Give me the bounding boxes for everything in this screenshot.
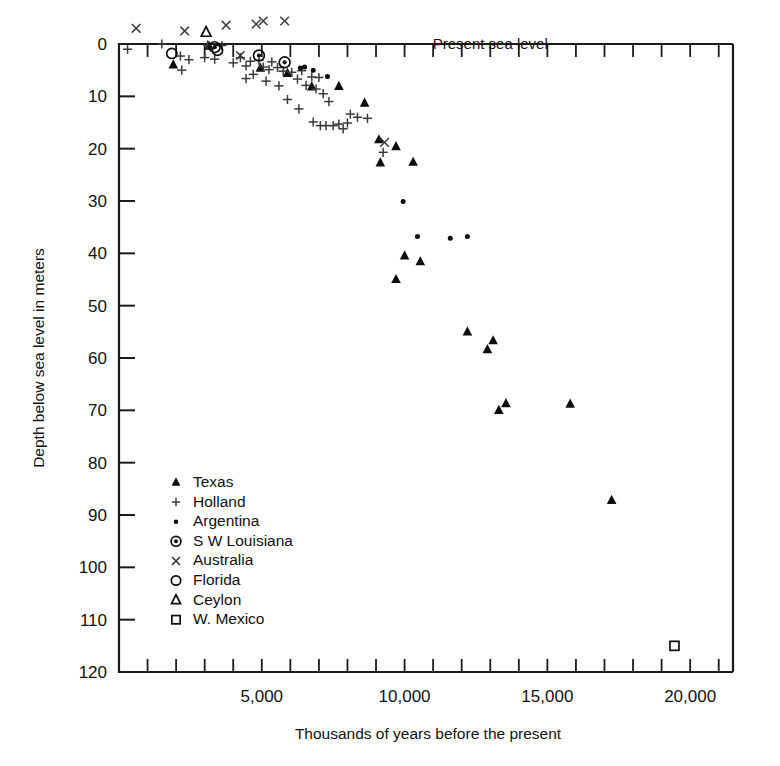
legend-item-ceylon[interactable]: Ceylon [171,591,241,608]
y-axis-tick-labels: 0102030405060708090100110120 [79,35,107,682]
data-point-dot [298,66,303,71]
y-tick-label: 30 [88,192,107,211]
data-point-cross [280,17,289,26]
data-point-filled-triangle [400,250,410,259]
data-point-plus [294,104,303,113]
series-ceylon [201,27,211,37]
legend-label: Holland [193,493,246,510]
legend-item-argentina[interactable]: Argentina [174,512,260,529]
data-point-filled-triangle [376,157,386,166]
data-point-open-square [670,641,679,650]
chart-canvas: 5,00010,00015,00020,000 0102030405060708… [0,0,780,766]
data-point-plus [267,57,276,66]
data-point-dot [401,199,406,204]
present-sea-level-label: Present sea level [433,35,548,52]
legend-marker-open-triangle [171,595,180,604]
data-point-circled-dot [279,57,290,68]
legend-marker-plus [172,498,180,506]
legend-marker-open-circle [171,576,180,585]
data-point-cross [132,24,141,33]
x-tick-label: 15,000 [521,687,573,706]
data-point-plus [324,97,333,106]
chart-legend: TexasHollandArgentinaS W LouisianaAustra… [171,473,293,627]
legend-marker-dot [174,519,179,524]
data-point-plus [339,124,348,133]
data-point-plus [329,121,338,130]
x-axis-bottom-ticks [148,659,719,672]
data-point-filled-triangle [463,326,473,335]
data-point-dot [325,74,330,79]
data-point-filled-triangle [374,134,384,143]
y-tick-label: 0 [98,35,107,54]
legend-label: Florida [193,571,241,588]
data-point-plus [334,119,343,128]
data-point-plus [293,74,302,83]
y-tick-label: 10 [88,87,107,106]
data-point-plus [200,53,209,62]
legend-item-florida[interactable]: Florida [171,571,240,588]
y-tick-label: 120 [79,663,107,682]
data-point-dot [415,234,420,239]
data-point-plus [314,73,323,82]
legend-label: S W Louisiana [193,532,293,549]
x-tick-label: 20,000 [664,687,716,706]
data-point-filled-triangle [334,81,344,90]
data-point-filled-triangle [391,274,401,283]
data-point-open-circle [212,45,222,55]
legend-label: Texas [193,473,234,490]
data-point-filled-triangle [501,398,511,407]
data-point-plus [343,118,352,127]
y-tick-label: 60 [88,349,107,368]
data-point-filled-triangle [408,157,418,166]
data-point-dot [465,234,470,239]
data-point-filled-triangle [415,256,425,265]
y-tick-label: 20 [88,140,107,159]
data-point-plus [241,74,250,83]
y-tick-label: 90 [88,506,107,525]
data-point-plus [363,114,372,123]
y-tick-label: 70 [88,401,107,420]
legend-item-texas[interactable]: Texas [172,473,234,490]
data-point-plus [177,66,186,75]
data-point-dot [311,68,316,73]
legend-label: W. Mexico [193,610,264,627]
data-point-plus [241,61,250,70]
data-point-plus [379,148,388,157]
data-point-plus [319,89,328,98]
data-point-filled-triangle [565,398,575,407]
legend-marker-filled-triangle [172,477,181,485]
legend-item-w-mexico[interactable]: W. Mexico [172,610,265,627]
data-point-filled-triangle [360,98,370,107]
data-point-plus [236,53,245,62]
legend-item-holland[interactable]: Holland [172,493,246,510]
legend-marker-circled-dot [171,536,181,546]
data-point-filled-triangle [607,495,617,504]
legend-label: Ceylon [193,591,241,608]
x-tick-label: 5,000 [241,687,284,706]
y-tick-label: 80 [88,454,107,473]
data-point-plus [283,95,292,104]
legend-item-s-w-louisiana[interactable]: S W Louisiana [171,532,293,549]
series-texas [168,41,616,504]
y-tick-label: 40 [88,244,107,263]
x-axis-tick-labels: 5,00010,00015,00020,000 [241,687,717,706]
data-point-cross [222,21,231,30]
data-point-filled-triangle [488,335,498,344]
legend-item-australia[interactable]: Australia [172,551,254,568]
data-point-plus [157,39,166,48]
data-point-filled-triangle [483,344,493,353]
y-tick-label: 50 [88,297,107,316]
sea-level-chart-figure: 5,00010,00015,00020,000 0102030405060708… [0,0,780,766]
series-w-mexico [670,641,679,650]
data-point-dot [448,236,453,241]
data-point-plus [184,55,193,64]
x-axis-title: Thousands of years before the present [295,725,562,742]
data-point-plus [261,77,270,86]
series-holland [123,39,388,157]
data-point-filled-triangle [391,141,401,150]
y-axis-title: Depth below sea level in meters [30,248,47,468]
data-point-cross [180,27,189,36]
data-point-dot [302,65,307,70]
y-tick-label: 110 [80,611,107,630]
y-tick-label: 100 [79,558,107,577]
